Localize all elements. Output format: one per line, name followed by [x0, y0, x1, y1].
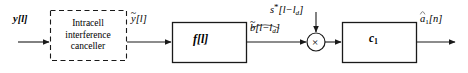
canceller-line-1: Intracell [72, 18, 104, 29]
block-intracell-interference-canceller[interactable]: Intracell interference canceller [51, 10, 125, 60]
signal-label-conjugate-spread: s*[l−ld] [270, 3, 303, 17]
signal-label-output-a-hat: a1[n] [420, 14, 442, 26]
signal-conjugate-index-close: ] [299, 4, 303, 15]
canceller-line-2: interference [65, 30, 110, 41]
signal-output-index: [n] [429, 13, 442, 24]
block-diagram: y[l] Intracell interference canceller ~y… [0, 0, 468, 73]
block-filter-f-outline [173, 23, 247, 63]
hat-accent-icon-a [420, 9, 425, 15]
signal-label-equalized-b-hat: ~b[l−ld] [250, 22, 280, 35]
tilde-accent-icon: ~ [131, 8, 136, 18]
combiner-c1-sub: 1 [374, 37, 378, 46]
signal-input-index: [l] [18, 13, 28, 24]
tilde-accent-icon-b: ~ [250, 17, 255, 27]
signal-cancelled-index: [l] [136, 13, 147, 24]
block-combiner-c1-label: c1 [369, 33, 378, 46]
multiply-icon: × [312, 37, 318, 48]
block-combiner-c1-outline [343, 23, 417, 63]
block-filter-f-label: f[l] [193, 33, 208, 45]
signal-label-input-y: y[l] [13, 14, 28, 25]
signal-label-cancelled-y-tilde: ~y[l] [131, 14, 147, 25]
signal-conjugate-index: [l−l [279, 4, 296, 15]
canceller-line-3: canceller [71, 41, 105, 52]
filter-f-index: [l] [197, 32, 208, 46]
